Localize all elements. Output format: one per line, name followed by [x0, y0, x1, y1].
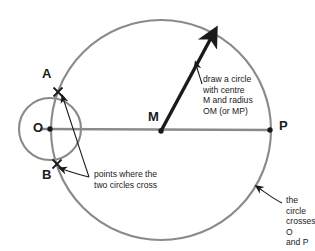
point-label-O: O — [33, 121, 43, 134]
point-label-A: A — [42, 67, 51, 80]
annotation-big-circle-note: the circle crosses O and P — [286, 195, 315, 248]
callout-arrow-to-B — [64, 170, 90, 178]
point-dot-P — [267, 127, 272, 132]
callout-arrow-radius-note — [197, 66, 203, 84]
callout-arrow-to-big-circle — [260, 189, 283, 204]
geometry-diagram: O M P A B draw a circle with centre M an… — [0, 0, 315, 251]
point-label-P: P — [279, 119, 288, 132]
point-dot-O — [47, 126, 52, 131]
point-label-B: B — [42, 168, 51, 181]
annotation-radius-note: draw a circle with centre M and radius O… — [203, 74, 253, 116]
annotation-crossing-points-note: points where the two circles cross — [94, 169, 157, 190]
line-segment-OP — [40, 129, 272, 130]
point-label-M: M — [148, 110, 159, 123]
diagram-canvas — [0, 0, 315, 251]
